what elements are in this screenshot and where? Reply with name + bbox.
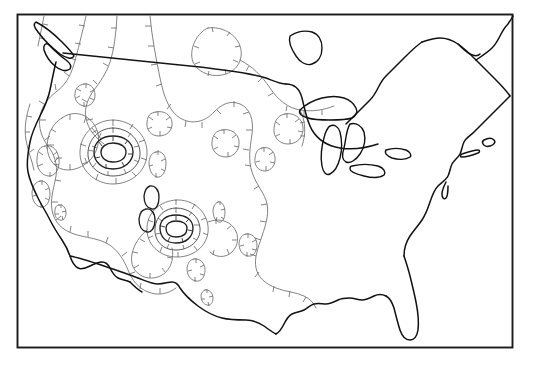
- contour-map-figure: [0, 0, 540, 366]
- map-canvas: [0, 0, 540, 366]
